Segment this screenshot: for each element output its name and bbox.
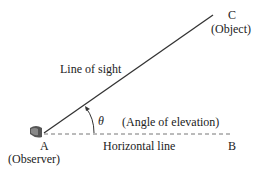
- object-caption: (Object): [211, 23, 251, 35]
- eye-icon: [30, 126, 42, 138]
- horizontal-line-label: Horizontal line: [103, 140, 175, 152]
- point-b-label: B: [228, 140, 236, 152]
- angle-arrowhead: [85, 106, 90, 111]
- angle-symbol: θ: [98, 115, 104, 127]
- observer-caption: (Observer): [8, 153, 60, 165]
- point-a-label: A: [40, 140, 49, 152]
- line-of-sight-label: Line of sight: [60, 63, 121, 75]
- angle-caption: (Angle of elevation): [122, 116, 219, 128]
- angle-arc: [86, 108, 94, 133]
- point-c-label: C: [228, 9, 236, 21]
